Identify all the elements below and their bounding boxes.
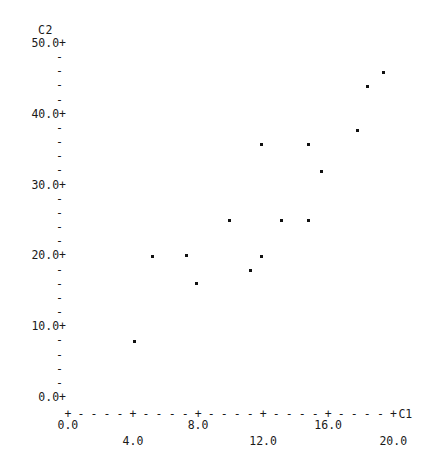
y-axis-title: C2 xyxy=(38,24,53,36)
x-axis-dash: - xyxy=(351,408,358,420)
x-axis-dash: - xyxy=(117,408,124,420)
y-axis-minor-tick: - xyxy=(0,363,63,375)
x-axis-dash: - xyxy=(286,408,293,420)
y-axis-tick-label: 40.0+ xyxy=(0,108,66,120)
data-point xyxy=(260,255,263,258)
data-point xyxy=(280,219,283,222)
y-axis-minor-tick: - xyxy=(0,306,63,318)
y-axis-minor-tick: - xyxy=(0,264,63,276)
y-axis-tick-label: 30.0+ xyxy=(0,179,66,191)
x-axis-dash: - xyxy=(169,408,176,420)
y-axis-minor-tick: - xyxy=(0,377,63,389)
x-axis-dash: - xyxy=(377,408,384,420)
y-axis-minor-tick: - xyxy=(0,122,63,134)
y-axis-minor-tick: - xyxy=(0,79,63,91)
y-axis-minor-tick: - xyxy=(0,221,63,233)
x-axis-major-tick: + xyxy=(260,408,267,420)
x-axis-tick-label: 12.0 xyxy=(249,435,277,447)
y-axis-minor-tick: - xyxy=(0,164,63,176)
x-axis-tick-label: 4.0 xyxy=(123,435,144,447)
y-axis-minor-tick: - xyxy=(0,207,63,219)
y-axis-minor-tick: - xyxy=(0,193,63,205)
x-axis-dash: - xyxy=(234,408,241,420)
y-axis-minor-tick: - xyxy=(0,235,63,247)
y-axis-tick-label: 10.0+ xyxy=(0,320,66,332)
x-axis-tick-label: 16.0 xyxy=(314,419,342,431)
y-axis-minor-tick: - xyxy=(0,150,63,162)
x-axis-dash: - xyxy=(273,408,280,420)
x-axis-dash: - xyxy=(221,408,228,420)
y-axis-tick-label: 50.0+ xyxy=(0,37,66,49)
y-axis-tick-label: 0.0+ xyxy=(0,391,66,403)
x-axis-dash: - xyxy=(247,408,254,420)
data-point xyxy=(249,269,252,272)
y-axis-minor-tick: - xyxy=(0,334,63,346)
data-point xyxy=(260,143,263,146)
y-axis-minor-tick: - xyxy=(0,349,63,361)
x-axis-dash: - xyxy=(156,408,163,420)
data-point xyxy=(307,143,310,146)
data-point xyxy=(307,219,310,222)
scatter-plot: C20.0+10.0+20.0+30.0+40.0+50.0+---------… xyxy=(0,0,430,465)
x-axis-dash: - xyxy=(208,408,215,420)
data-point xyxy=(228,219,231,222)
x-axis-dash: - xyxy=(78,408,85,420)
x-axis-tick-label: 8.0 xyxy=(188,419,209,431)
x-axis-dash: - xyxy=(299,408,306,420)
y-axis-tick-label: 20.0+ xyxy=(0,249,66,261)
x-axis-tick-label: 0.0 xyxy=(58,419,79,431)
y-axis-minor-tick: - xyxy=(0,94,63,106)
data-point xyxy=(382,71,385,74)
x-axis-dash: - xyxy=(104,408,111,420)
data-point xyxy=(133,340,136,343)
y-axis-minor-tick: - xyxy=(0,136,63,148)
x-axis-major-tick: + xyxy=(130,408,137,420)
x-axis-dash: - xyxy=(91,408,98,420)
y-axis-minor-tick: - xyxy=(0,292,63,304)
x-axis-major-tick: + xyxy=(390,408,397,420)
x-axis-title: C1 xyxy=(398,408,412,420)
y-axis-minor-tick: - xyxy=(0,51,63,63)
data-point xyxy=(366,85,369,88)
x-axis-dash: - xyxy=(364,408,371,420)
data-point xyxy=(320,170,323,173)
x-axis-tick-label: 20.0 xyxy=(379,435,407,447)
y-axis-minor-tick: - xyxy=(0,65,63,77)
data-point xyxy=(151,255,154,258)
y-axis-minor-tick: - xyxy=(0,278,63,290)
data-point xyxy=(356,129,359,132)
x-axis-dash: - xyxy=(143,408,150,420)
data-point xyxy=(185,254,188,257)
data-point xyxy=(195,282,198,285)
